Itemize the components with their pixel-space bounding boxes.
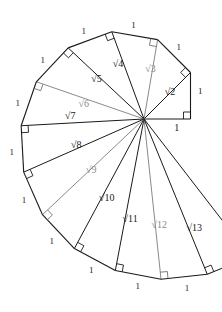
- hypotenuse-spoke-6: [36, 82, 144, 119]
- hypotenuse-label-1: 1: [174, 122, 179, 133]
- unit-edge-11: [115, 271, 161, 280]
- unit-label-4: 1: [82, 26, 87, 36]
- hypotenuse-label-7: √7: [65, 110, 76, 121]
- right-angle-marker-9: [47, 210, 52, 220]
- unit-edge-5: [36, 48, 68, 82]
- unit-label-3: 1: [131, 20, 136, 30]
- hypotenuse-label-5: √5: [91, 73, 102, 84]
- unit-label-1: 1: [198, 86, 203, 96]
- hypotenuse-spoke-13: [144, 119, 207, 274]
- unit-label-9: 1: [50, 236, 55, 246]
- hypotenuse-label-10: √10: [99, 192, 115, 203]
- right-angle-marker-1: [184, 112, 191, 119]
- right-angle-marker-2: [181, 68, 186, 78]
- right-angle-marker-12: [160, 272, 168, 279]
- unit-edge-10: [74, 249, 115, 271]
- unit-edge-6: [21, 82, 36, 126]
- unit-edge-4: [68, 32, 112, 48]
- hypotenuse-spoke-10: [74, 119, 144, 249]
- right-angle-marker-7: [22, 125, 29, 132]
- hypotenuse-label-3: √3: [145, 63, 156, 74]
- hypotenuse-label-12: √12: [151, 219, 167, 230]
- hypotenuse-label-6: √6: [78, 98, 89, 109]
- unit-label-10: 1: [89, 265, 94, 275]
- hypotenuse-spoke-7: [21, 119, 144, 126]
- hypotenuse-spoke-14: [144, 119, 222, 257]
- unit-label-11: 1: [136, 281, 141, 291]
- hypotenuse-spoke-12: [144, 119, 161, 279]
- unit-label-2: 1: [177, 42, 182, 52]
- spiral-of-theodorus-figure: 1√2√3√4√5√6√7√8√9√10√11√12√13 1111111111…: [0, 0, 222, 312]
- hypotenuse-label-2: √2: [165, 86, 176, 97]
- hypotenuse-spoke-4: [112, 32, 144, 119]
- right-angle-marker-5: [63, 53, 73, 58]
- hypotenuse-label-9: √9: [86, 164, 97, 175]
- hypotenuse-label-8: √8: [71, 139, 82, 150]
- unit-label-7: 1: [9, 147, 14, 157]
- hypotenuse-label-4: √4: [113, 58, 124, 69]
- unit-label-6: 1: [16, 98, 21, 108]
- hypotenuse-spoke-8: [24, 119, 144, 172]
- hypotenuse-label-11: √11: [123, 213, 138, 224]
- unit-label-12: 1: [185, 283, 190, 293]
- unit-label-8: 1: [22, 195, 27, 205]
- unit-label-5: 1: [41, 55, 46, 65]
- hypotenuse-label-13: √13: [187, 222, 203, 233]
